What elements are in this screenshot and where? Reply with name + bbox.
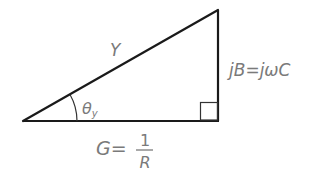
angle-symbol: θ [82,99,92,118]
vertical-side-label: jB=jωC [227,60,291,80]
angle-arc [70,95,77,122]
angle-subscript: y [91,108,99,119]
base-label: G= 1 R [96,131,153,172]
hypotenuse-label: Y [110,40,122,60]
base-label-numerator: 1 [140,131,150,150]
base-label-prefix: G= [96,137,127,159]
right-angle-marker [201,103,218,121]
angle-label: θy [82,99,99,119]
admittance-triangle-diagram: Y θy jB=jωC G= 1 R [0,0,317,179]
hypotenuse-line [23,10,218,121]
triangle [23,10,219,121]
base-label-denominator: R [139,153,150,172]
